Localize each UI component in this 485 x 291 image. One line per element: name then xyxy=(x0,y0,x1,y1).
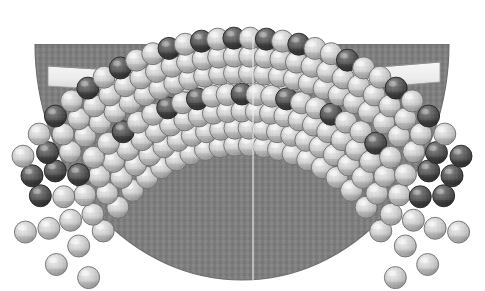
sphere-light xyxy=(384,267,406,289)
sphere-dark xyxy=(409,186,431,208)
sphere-dark xyxy=(29,185,51,207)
sphere-light xyxy=(394,235,416,257)
sphere-light xyxy=(38,217,60,239)
sphere-dark xyxy=(418,105,440,127)
sphere-light xyxy=(14,221,36,243)
sphere-light xyxy=(424,217,446,239)
figure-root: Grayscale scientific schematic: a textur… xyxy=(0,0,485,291)
sphere-dark xyxy=(433,185,455,207)
nanoparticle-cross-section-figure xyxy=(0,0,485,291)
sphere-dark xyxy=(441,165,463,187)
sphere-light xyxy=(78,267,100,289)
sphere-light xyxy=(402,209,424,231)
sphere-light xyxy=(45,254,67,276)
sphere-light xyxy=(53,186,75,208)
sphere-light xyxy=(380,203,402,225)
sphere-dark xyxy=(68,164,90,186)
sphere-light xyxy=(74,184,96,206)
sphere-dark xyxy=(450,145,472,167)
sphere-light xyxy=(380,146,402,168)
sphere-dark xyxy=(21,165,43,187)
sphere-light xyxy=(448,221,470,243)
sphere-light xyxy=(68,235,90,257)
sphere-light xyxy=(434,123,456,145)
sphere-light xyxy=(417,254,439,276)
sphere-light xyxy=(12,145,34,167)
sphere-light xyxy=(60,209,82,231)
sphere-light xyxy=(28,123,50,145)
sphere-light xyxy=(82,203,104,225)
sphere-light xyxy=(394,164,416,186)
sphere-light xyxy=(388,184,410,206)
